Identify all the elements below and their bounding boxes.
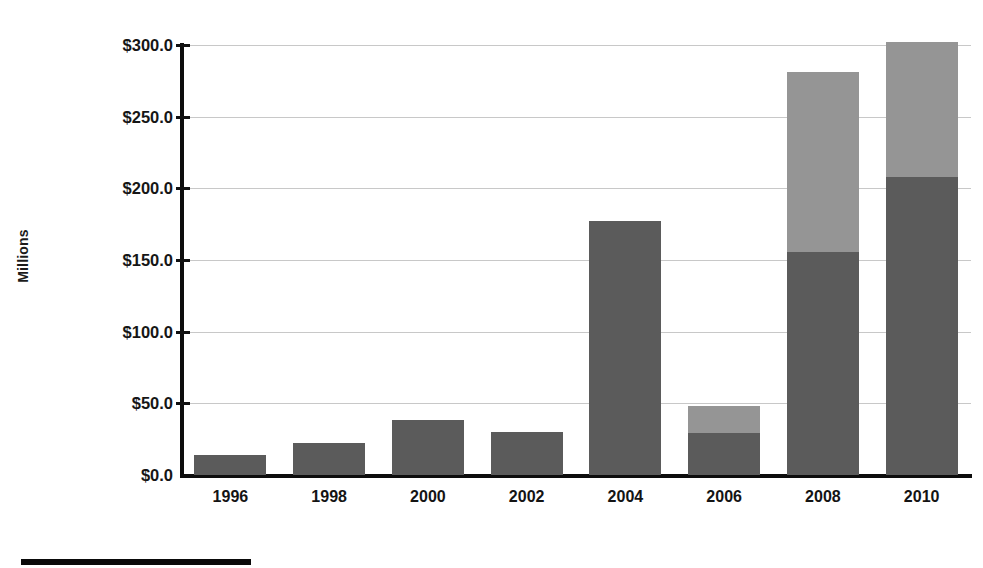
bar-segment[interactable] bbox=[886, 177, 958, 475]
x-tick-label: 2000 bbox=[410, 488, 446, 506]
bar-segment[interactable] bbox=[787, 72, 859, 253]
y-tick-label: $100.0 bbox=[81, 322, 173, 341]
x-tick-label: 2002 bbox=[509, 488, 545, 506]
bar-group[interactable] bbox=[491, 45, 563, 475]
y-axis-title: Millions bbox=[15, 211, 31, 301]
legend-box-partial bbox=[21, 559, 251, 565]
y-tick-mark bbox=[176, 187, 190, 190]
bar-segment[interactable] bbox=[293, 443, 365, 475]
x-tick-label: 2008 bbox=[805, 488, 841, 506]
x-tick-label: 1998 bbox=[311, 488, 347, 506]
y-tick-mark bbox=[176, 402, 190, 405]
bar-group[interactable] bbox=[886, 45, 958, 475]
y-tick-mark bbox=[176, 116, 190, 119]
stacked-bar-chart: Millions $0.0$50.0$100.0$150.0$200.0$250… bbox=[0, 0, 983, 568]
x-tick-label: 2004 bbox=[608, 488, 644, 506]
bar-segment[interactable] bbox=[491, 432, 563, 475]
y-tick-label: $250.0 bbox=[81, 107, 173, 126]
bar-group[interactable] bbox=[787, 45, 859, 475]
bar-group[interactable] bbox=[688, 45, 760, 475]
x-tick-label: 2006 bbox=[706, 488, 742, 506]
y-tick-mark bbox=[176, 44, 190, 47]
y-tick-mark bbox=[176, 259, 190, 262]
bar-group[interactable] bbox=[293, 45, 365, 475]
bar-group[interactable] bbox=[194, 45, 266, 475]
bar-group[interactable] bbox=[392, 45, 464, 475]
x-tick-label: 1996 bbox=[213, 488, 249, 506]
x-axis-tick-labels: 19961998200020022004200620082010 bbox=[181, 488, 971, 518]
y-tick-label: $50.0 bbox=[81, 394, 173, 413]
bar-segment[interactable] bbox=[886, 42, 958, 177]
y-tick-label: $0.0 bbox=[81, 466, 173, 485]
y-axis-tick-labels: $0.0$50.0$100.0$150.0$200.0$250.0$300.0 bbox=[78, 45, 173, 475]
y-tick-mark bbox=[176, 331, 190, 334]
bar-segment[interactable] bbox=[787, 252, 859, 475]
bar-group[interactable] bbox=[589, 45, 661, 475]
y-tick-label: $300.0 bbox=[81, 36, 173, 55]
y-tick-label: $150.0 bbox=[81, 251, 173, 270]
bar-segment[interactable] bbox=[392, 420, 464, 475]
bar-segment[interactable] bbox=[194, 455, 266, 475]
bar-segment[interactable] bbox=[688, 433, 760, 475]
x-tick-label: 2010 bbox=[904, 488, 940, 506]
bars-layer bbox=[181, 45, 971, 475]
bar-segment[interactable] bbox=[589, 221, 661, 475]
bar-segment[interactable] bbox=[688, 406, 760, 433]
y-tick-label: $200.0 bbox=[81, 179, 173, 198]
